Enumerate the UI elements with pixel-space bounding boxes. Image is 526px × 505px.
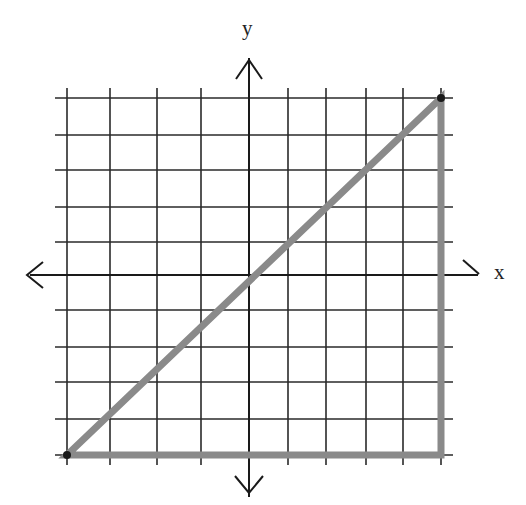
- coordinate-plane: [0, 0, 526, 505]
- x-axis-label: x: [494, 262, 505, 283]
- triangle-outline: [67, 98, 441, 455]
- triangle: [63, 94, 445, 459]
- vertex-point: [63, 451, 71, 459]
- vertex-point: [437, 94, 445, 102]
- y-axis-label: y: [242, 18, 253, 39]
- arrow-right-icon: [463, 260, 479, 274]
